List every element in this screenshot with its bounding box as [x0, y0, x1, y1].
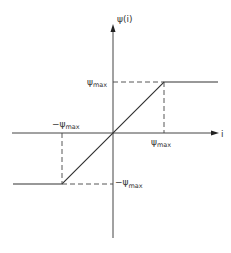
label-psi-max-x: ψmax: [151, 137, 171, 149]
saturation-diagram: ψ(i) i ψmax −ψmax ψmax −ψmax: [0, 0, 231, 253]
label-psi-max-y: ψmax: [87, 77, 107, 89]
label-neg-psi-max-y: −ψmax: [115, 177, 143, 190]
label-neg-psi-max-x: −ψmax: [52, 119, 80, 131]
y-axis-label: ψ(i): [117, 14, 132, 24]
x-axis-arrow-icon: [211, 131, 219, 136]
x-axis-label: i: [221, 129, 224, 139]
y-axis-arrow-icon: [111, 24, 116, 32]
